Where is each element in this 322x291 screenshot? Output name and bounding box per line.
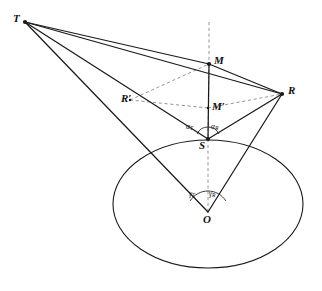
vertex-dot-M	[207, 62, 211, 66]
ray-lines-group	[25, 22, 282, 212]
vertex-dot-M-prime	[207, 107, 209, 109]
segment-T-O	[25, 22, 208, 212]
diagram-svg	[0, 0, 322, 291]
point-label-M-prime: M′	[212, 101, 225, 112]
vertex-dot-T	[23, 20, 27, 24]
vertex-dots-group	[23, 20, 284, 141]
dashed-R-prime-to-M	[130, 64, 209, 100]
vertex-dot-R	[280, 92, 284, 96]
construction-lines-group	[130, 22, 282, 212]
angle-alpha-R: αR	[211, 123, 218, 132]
geometry-diagram-canvas: TMRR′M′SOαTαRγTγR	[0, 0, 322, 291]
vertex-dot-S	[206, 137, 210, 141]
segment-T-S	[25, 22, 208, 139]
point-label-R-prime: R′	[121, 93, 131, 104]
segment-T-R	[25, 22, 282, 94]
point-label-M: M	[214, 55, 224, 66]
segment-M-R	[209, 64, 282, 94]
point-label-S: S	[199, 140, 205, 151]
angle-gamma-R: γR	[209, 190, 215, 199]
angle-alpha-T: αT	[186, 123, 193, 132]
angle-gamma-T: γT	[189, 190, 195, 199]
segment-S-M	[208, 64, 209, 139]
point-label-T: T	[13, 13, 20, 24]
dashed-M-prime-to-R-prime	[130, 100, 208, 108]
point-label-R: R	[288, 85, 295, 96]
segment-T-M	[25, 22, 209, 64]
point-label-O: O	[203, 214, 211, 225]
